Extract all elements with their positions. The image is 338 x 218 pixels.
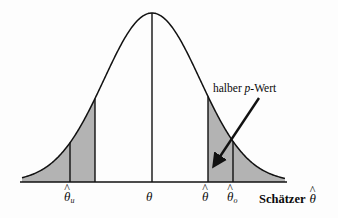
tick-symbol: θ	[146, 189, 152, 204]
tick-subscript: u	[70, 196, 74, 205]
annotation-half-p-value: halber p-Wert	[213, 83, 276, 95]
axis-title-label: Schätzer	[259, 192, 306, 206]
tick-label-theta: θ	[146, 190, 152, 203]
hat-accent-icon: ^	[202, 182, 208, 194]
vertical-marker-lines	[70, 13, 233, 182]
annotation-text-before: halber	[213, 82, 245, 94]
hat-accent-icon: ^	[310, 184, 316, 196]
figure-container: halber p-Wert ^θuθ^θ^θo Schätzer^θ	[0, 0, 338, 218]
axis-title-symbol: ^θ	[310, 191, 316, 206]
bell-curve	[22, 13, 285, 178]
hat-accent-icon: ^	[227, 182, 233, 194]
tick-label-theta-hat: ^θ	[202, 190, 208, 203]
tick-label-theta-hat-lower: ^θu	[64, 190, 74, 203]
tick-label-theta-hat-upper: ^θo	[227, 190, 237, 203]
distribution-chart	[0, 0, 338, 218]
annotation-text-after: -Wert	[250, 82, 276, 94]
tick-subscript: o	[233, 196, 237, 205]
hat-accent-icon: ^	[64, 182, 70, 194]
axis-title: Schätzer^θ	[259, 192, 316, 206]
